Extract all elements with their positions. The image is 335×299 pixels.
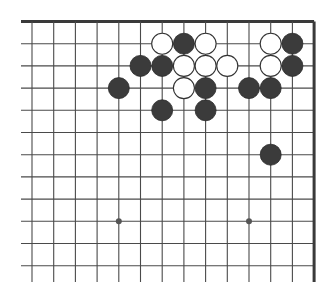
white-stone[interactable] [217,55,238,76]
white-stone[interactable] [260,55,281,76]
white-stone[interactable] [260,33,281,54]
white-stone[interactable] [173,55,194,76]
white-stone[interactable] [152,33,173,54]
black-stone[interactable] [195,100,216,121]
black-stone[interactable] [282,33,303,54]
black-stone[interactable] [108,78,129,99]
black-stone[interactable] [239,78,260,99]
black-stone[interactable] [282,55,303,76]
black-stone[interactable] [260,78,281,99]
black-stone[interactable] [173,33,194,54]
white-stone[interactable] [195,55,216,76]
black-stone[interactable] [152,100,173,121]
star-point [116,218,122,224]
black-stone[interactable] [152,55,173,76]
white-stone[interactable] [195,33,216,54]
go-board[interactable] [0,0,335,299]
black-stone[interactable] [195,78,216,99]
star-point [246,218,252,224]
black-stone[interactable] [130,55,151,76]
white-stone[interactable] [173,78,194,99]
black-stone[interactable] [260,144,281,165]
